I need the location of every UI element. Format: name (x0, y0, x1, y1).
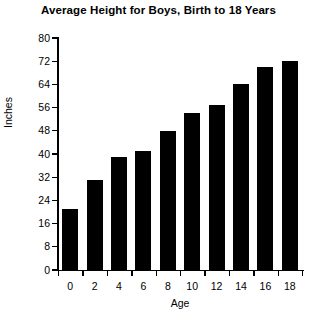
x-tick-mark (156, 270, 157, 276)
x-tick-mark (278, 270, 279, 276)
y-tick-label-text: 48 (26, 125, 50, 136)
bar (135, 151, 151, 270)
y-tick-label: 0 (26, 265, 50, 276)
bar (257, 67, 273, 270)
y-tick-label: 16 (26, 218, 50, 229)
x-tick-label: 14 (228, 281, 254, 292)
y-tick-label: 72 (26, 56, 50, 67)
y-tick-label-text: 0 (26, 265, 50, 276)
y-tick-label: 32 (26, 172, 50, 183)
x-tick-mark (204, 270, 205, 276)
y-tick-label-text: 8 (26, 241, 50, 252)
bar (62, 209, 78, 270)
plot-area (58, 38, 302, 270)
x-tick-mark (131, 270, 132, 276)
y-tick-label: 8 (26, 241, 50, 252)
y-tick-label-text: 56 (26, 102, 50, 113)
x-tick-label: 16 (252, 281, 278, 292)
y-tick-label: 24 (26, 195, 50, 206)
bar (184, 113, 200, 270)
x-axis-title: Age (58, 297, 302, 309)
bar-chart-figure: Average Height for Boys, Birth to 18 Yea… (0, 0, 317, 330)
x-tick-label: 0 (57, 281, 83, 292)
bar (87, 180, 103, 270)
bar (209, 105, 225, 270)
y-tick-label-text: 40 (26, 149, 50, 160)
x-tick-label: 6 (130, 281, 156, 292)
y-tick-label: 64 (26, 79, 50, 90)
x-tick-mark (229, 270, 230, 276)
x-tick-label: 8 (155, 281, 181, 292)
y-tick-label-text: 80 (26, 33, 50, 44)
y-axis-title: Inches (2, 97, 14, 128)
bar (282, 61, 298, 270)
x-tick-label: 12 (204, 281, 230, 292)
x-tick-mark (107, 270, 108, 276)
bar (233, 84, 249, 270)
y-tick-label-text: 16 (26, 218, 50, 229)
y-tick-label: 48 (26, 125, 50, 136)
y-tick-label-text: 24 (26, 195, 50, 206)
y-tick-label-text: 64 (26, 79, 50, 90)
y-tick-label: 56 (26, 102, 50, 113)
x-tick-mark (180, 270, 181, 276)
x-tick-mark (82, 270, 83, 276)
x-tick-mark (302, 270, 303, 276)
y-tick-label: 40 (26, 149, 50, 160)
y-tick-label: 80 (26, 33, 50, 44)
x-tick-label: 4 (106, 281, 132, 292)
bar (111, 157, 127, 270)
x-tick-mark (253, 270, 254, 276)
chart-title: Average Height for Boys, Birth to 18 Yea… (0, 4, 317, 16)
y-tick-label-text: 32 (26, 172, 50, 183)
y-tick-label-text: 72 (26, 56, 50, 67)
x-tick-label: 18 (277, 281, 303, 292)
x-tick-label: 2 (82, 281, 108, 292)
x-tick-mark (58, 270, 59, 276)
x-tick-label: 10 (179, 281, 205, 292)
bar (160, 131, 176, 270)
